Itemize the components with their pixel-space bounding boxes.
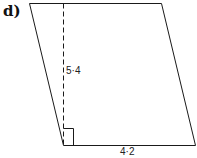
height-label: 5·4 xyxy=(66,65,80,76)
parallelogram-figure xyxy=(0,0,197,158)
right-angle-marker xyxy=(64,129,74,146)
parallelogram-outline xyxy=(30,4,196,146)
base-label: 4·2 xyxy=(120,146,134,157)
parallelogram-diagram: d) 5·4 4·2 xyxy=(0,0,197,158)
